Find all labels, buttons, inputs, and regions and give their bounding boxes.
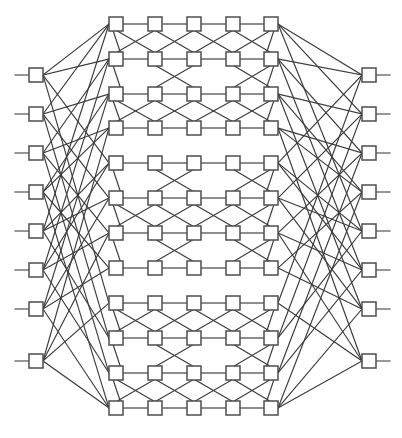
mesh-group-link xyxy=(267,101,274,121)
topology-diagram-root xyxy=(0,0,402,438)
mesh-group-link xyxy=(113,240,120,261)
mesh-group-link xyxy=(113,345,120,366)
mesh-group-link xyxy=(113,31,120,52)
mesh-node xyxy=(264,401,278,415)
left-terminal-node xyxy=(29,302,43,316)
mesh-group-link xyxy=(267,380,274,401)
right-terminal-node xyxy=(362,263,376,277)
mesh-node xyxy=(109,366,123,380)
mesh-node xyxy=(148,191,162,205)
mesh-node xyxy=(148,226,162,240)
right-terminal-node xyxy=(362,302,376,316)
mesh-node xyxy=(226,366,240,380)
right-terminal-node xyxy=(362,354,376,368)
mesh-node xyxy=(187,17,201,31)
mesh-node xyxy=(109,52,123,66)
mesh-node xyxy=(148,156,162,170)
mesh-node xyxy=(148,331,162,345)
mesh-node xyxy=(187,261,201,275)
mesh-node xyxy=(109,191,123,205)
mesh-node xyxy=(187,191,201,205)
right-terminal-node xyxy=(362,107,376,121)
mesh-group-link xyxy=(113,310,120,331)
left-terminal-node xyxy=(29,354,43,368)
mesh-group-link xyxy=(113,170,120,191)
right-fanin-edge xyxy=(278,128,362,192)
right-fanin-edge xyxy=(278,303,362,361)
right-terminal-node xyxy=(362,68,376,82)
mesh-group-link xyxy=(267,205,274,226)
mesh-node xyxy=(264,261,278,275)
mesh-node xyxy=(109,156,123,170)
mesh-group-link xyxy=(113,66,120,87)
left-fanout-edge xyxy=(43,128,109,192)
mesh-group-link xyxy=(267,31,274,52)
mesh-node xyxy=(109,226,123,240)
left-terminal-node xyxy=(29,107,43,121)
mesh-node xyxy=(264,17,278,31)
mesh-node xyxy=(187,296,201,310)
mesh-node xyxy=(226,191,240,205)
mesh-node xyxy=(226,296,240,310)
mesh-node xyxy=(109,296,123,310)
mesh-node xyxy=(226,52,240,66)
mesh-node xyxy=(226,261,240,275)
mesh-group-link xyxy=(267,170,274,191)
mesh-node xyxy=(264,331,278,345)
mesh-node xyxy=(264,366,278,380)
edge-layer xyxy=(43,24,362,408)
left-fanout-edge xyxy=(43,303,109,361)
mesh-node xyxy=(109,401,123,415)
mesh-node xyxy=(226,87,240,101)
mesh-node xyxy=(226,401,240,415)
mesh-node xyxy=(226,331,240,345)
left-fanout-edge xyxy=(43,24,109,114)
mesh-group-link xyxy=(267,345,274,366)
right-terminal-node xyxy=(362,224,376,238)
right-terminal-node xyxy=(362,146,376,160)
mesh-node xyxy=(148,296,162,310)
mesh-node xyxy=(264,156,278,170)
mesh-node xyxy=(264,191,278,205)
mesh-node xyxy=(187,87,201,101)
mesh-node xyxy=(264,296,278,310)
right-fanin-edge xyxy=(278,361,362,408)
mesh-node xyxy=(109,87,123,101)
mesh-node xyxy=(264,87,278,101)
mesh-node xyxy=(226,121,240,135)
mesh-node xyxy=(264,226,278,240)
mesh-node xyxy=(187,366,201,380)
mesh-node xyxy=(109,331,123,345)
right-terminal-node xyxy=(362,185,376,199)
mesh-node xyxy=(148,366,162,380)
left-terminal-node xyxy=(29,146,43,160)
mesh-node xyxy=(148,17,162,31)
right-fanin-edge xyxy=(278,94,362,114)
mesh-node xyxy=(226,156,240,170)
mesh-node xyxy=(264,121,278,135)
mesh-node xyxy=(148,87,162,101)
right-fanin-edge xyxy=(278,233,362,361)
mesh-node xyxy=(264,52,278,66)
mesh-group-link xyxy=(113,380,120,401)
mesh-node xyxy=(148,121,162,135)
left-terminal-node xyxy=(29,185,43,199)
mesh-group-link xyxy=(267,66,274,87)
mesh-group-link xyxy=(113,101,120,121)
mesh-node xyxy=(148,401,162,415)
topology-canvas xyxy=(0,0,402,438)
left-fanout-edge xyxy=(43,361,109,408)
mesh-node xyxy=(187,331,201,345)
mesh-node xyxy=(187,156,201,170)
mesh-node xyxy=(148,261,162,275)
mesh-node xyxy=(187,52,201,66)
left-terminal-node xyxy=(29,224,43,238)
mesh-node xyxy=(109,17,123,31)
left-terminal-node xyxy=(29,263,43,277)
mesh-node xyxy=(226,226,240,240)
mesh-group-link xyxy=(267,240,274,261)
left-fanout-edge xyxy=(43,94,109,114)
mesh-node xyxy=(187,226,201,240)
mesh-node xyxy=(148,52,162,66)
mesh-group-link xyxy=(113,205,120,226)
